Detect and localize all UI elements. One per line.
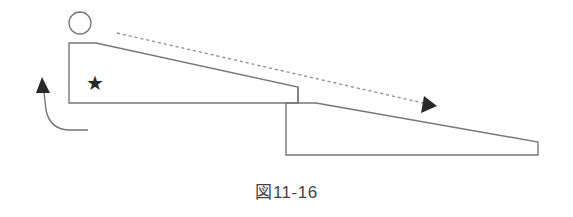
curved-arrow-head-icon	[36, 77, 50, 93]
figure-caption: 図11-16	[0, 178, 573, 203]
dashed-arrow-head-icon	[421, 96, 437, 113]
person-head-icon	[69, 12, 91, 34]
star-icon: ★	[86, 71, 104, 95]
lower-slope	[286, 103, 538, 155]
